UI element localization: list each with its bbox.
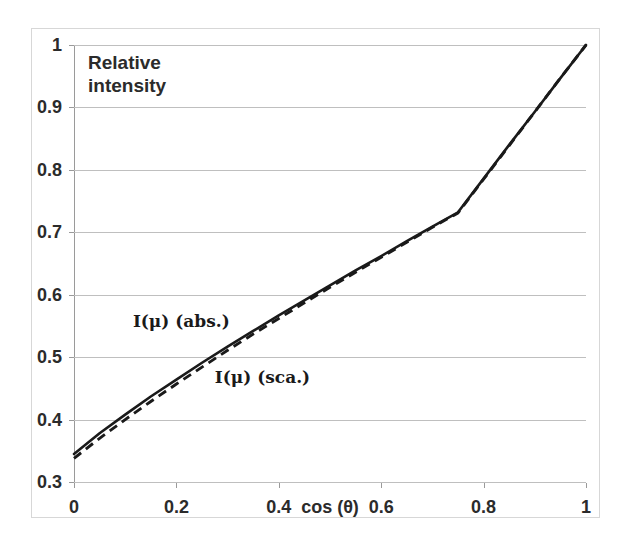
plot-area: 0.30.40.50.60.70.80.91 00.20.40.60.81 co… [74, 45, 586, 482]
series-line-absorption [74, 45, 586, 454]
y-tick-label: 1 [52, 35, 62, 56]
x-tick-label: 1 [581, 497, 591, 518]
y-tick-label: 0.7 [37, 222, 62, 243]
y-tick-label: 0.8 [37, 159, 62, 180]
series-annotation-label: I(μ) (sca.) [215, 367, 310, 387]
chart-figure: 0.30.40.50.60.70.80.91 00.20.40.60.81 co… [31, 28, 600, 518]
y-tick-label: 0.4 [37, 409, 62, 430]
x-tick-mark [484, 483, 485, 488]
y-tick-label: 0.6 [37, 284, 62, 305]
x-tick-label: 0.8 [471, 497, 496, 518]
x-tick-label: 0.4 [266, 497, 291, 518]
y-tick-label: 0.9 [37, 97, 62, 118]
x-axis-title: cos (θ) [301, 497, 359, 518]
x-tick-mark [279, 483, 280, 488]
x-tick-mark [176, 483, 177, 488]
x-tick-mark [381, 483, 382, 488]
curve-layer [74, 45, 586, 482]
x-tick-label: 0.6 [369, 497, 394, 518]
x-tick-mark [74, 483, 75, 488]
series-annotation-label: I(μ) (abs.) [133, 311, 230, 331]
y-tick-label: 0.5 [37, 347, 62, 368]
x-tick-label: 0 [69, 497, 79, 518]
x-tick-label: 0.2 [164, 497, 189, 518]
gridline-horizontal [74, 482, 586, 483]
x-tick-mark [586, 483, 587, 488]
y-tick-label: 0.3 [37, 472, 62, 493]
